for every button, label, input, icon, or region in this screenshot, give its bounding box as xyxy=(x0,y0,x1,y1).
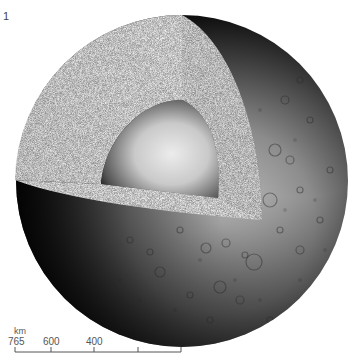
scale-bar xyxy=(0,0,358,362)
